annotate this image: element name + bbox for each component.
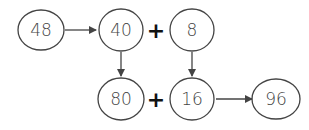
plus-operator-bottom: + — [147, 87, 165, 112]
node-96: 96 — [252, 79, 300, 119]
node-40: 40 — [99, 9, 143, 51]
node-8-label: 8 — [187, 20, 198, 40]
node-80: 80 — [98, 78, 144, 120]
node-96-label: 96 — [265, 89, 287, 109]
node-48: 48 — [18, 10, 64, 50]
node-40-label: 40 — [110, 20, 132, 40]
node-48-label: 48 — [30, 20, 52, 40]
node-8: 8 — [170, 9, 214, 51]
node-16: 16 — [170, 78, 214, 120]
node-16-label: 16 — [181, 89, 203, 109]
plus-operator-top: + — [147, 18, 165, 43]
partition-diagram: 48 40 8 80 16 96 + + — [0, 0, 309, 130]
node-80-label: 80 — [110, 89, 132, 109]
